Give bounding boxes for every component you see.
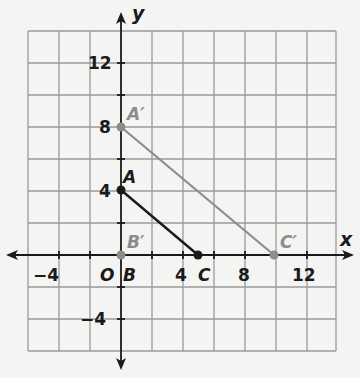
y-tick-label-12: 12 bbox=[88, 53, 112, 73]
grid bbox=[28, 31, 336, 351]
point-b-prime bbox=[117, 251, 126, 260]
point-a-prime-label: A′ bbox=[125, 104, 145, 124]
point-b-label: B bbox=[123, 265, 136, 285]
point-c bbox=[194, 251, 203, 260]
x-tick-label-12: 12 bbox=[292, 265, 316, 285]
x-axis-label: x bbox=[339, 228, 353, 250]
x-axis bbox=[6, 250, 354, 260]
x-tick-label-neg4: −4 bbox=[33, 265, 59, 285]
x-tick-label-8: 8 bbox=[238, 265, 250, 285]
coordinate-plane-figure: x y −4 O 4 8 12 12 8 4 −4 A′ A B′ B C C′ bbox=[0, 0, 360, 378]
origin-label: O bbox=[100, 265, 114, 285]
point-b-prime-label: B′ bbox=[127, 232, 145, 252]
point-c-prime bbox=[270, 251, 279, 260]
y-axis-label: y bbox=[132, 2, 146, 24]
point-a-label: A bbox=[121, 167, 136, 187]
point-c-prime-label: C′ bbox=[280, 232, 297, 252]
y-tick-label-8: 8 bbox=[99, 117, 111, 137]
point-a-prime bbox=[117, 123, 126, 132]
y-tick-label-neg4: −4 bbox=[80, 309, 106, 329]
point-c-label: C bbox=[198, 265, 211, 285]
y-tick-label-4: 4 bbox=[99, 181, 111, 201]
x-tick-label-4: 4 bbox=[175, 265, 187, 285]
